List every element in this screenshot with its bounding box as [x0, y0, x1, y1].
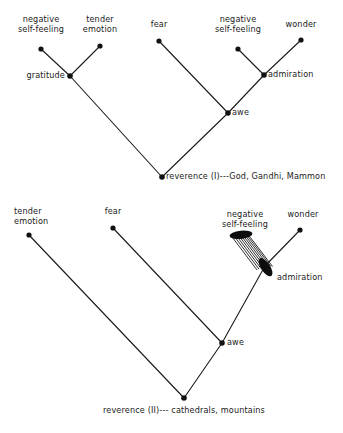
- edges-reverence-i: [41, 40, 301, 177]
- edge-tender-emotion-to-reverence-ii: [29, 235, 184, 398]
- edge-fear-to-awe: [159, 41, 228, 113]
- nodes-reverence-i: [38, 37, 303, 179]
- edge-awe-to-reverence: [162, 113, 228, 177]
- edge-gratitude-to-reverence: [70, 76, 162, 177]
- node-negative-self-feeling-right[interactable]: [235, 46, 240, 51]
- label-admiration: admiration: [268, 70, 314, 80]
- node-reverence-i-root[interactable]: [159, 174, 165, 180]
- node-gratitude[interactable]: [67, 73, 73, 79]
- label-awe: awe: [232, 108, 249, 118]
- label-tender-emotion-ii: tender emotion: [14, 207, 48, 226]
- diagram-reverence-ii: [26, 225, 302, 400]
- node-negative-self-feeling-left[interactable]: [38, 46, 43, 51]
- label-fear: fear: [151, 20, 168, 30]
- diagram-reverence-i: [38, 37, 303, 179]
- label-awe-ii: awe: [227, 338, 244, 348]
- edge-wonder-to-admiration-ii: [265, 230, 300, 266]
- label-gratitude: gratitude: [26, 71, 65, 81]
- node-tender-emotion[interactable]: [97, 43, 102, 48]
- edge-admiration-to-awe-ii: [222, 266, 265, 343]
- node-awe[interactable]: [225, 110, 231, 116]
- edge-negative-self-feeling-to-admiration: [238, 49, 264, 75]
- label-wonder-ii: wonder: [287, 210, 318, 220]
- label-fear-ii: fear: [105, 207, 122, 217]
- label-wonder: wonder: [285, 20, 316, 30]
- label-negative-self-feeling-left: negative self-feeling: [18, 15, 64, 34]
- node-fear-ii[interactable]: [110, 225, 115, 230]
- label-tender-emotion: tender emotion: [83, 15, 117, 34]
- label-reverence-i-root: reverence (I)---God, Gandhi, Mammon: [166, 172, 326, 182]
- label-negative-self-feeling-ii: negative self-feeling: [222, 210, 268, 229]
- label-reverence-ii-root: reverence (II)--- cathedrals, mountains: [103, 406, 265, 416]
- edges-reverence-ii: [29, 228, 300, 398]
- node-wonder[interactable]: [298, 37, 303, 42]
- node-awe-ii[interactable]: [219, 340, 225, 346]
- edge-fear-to-awe-ii: [113, 228, 222, 343]
- node-wonder-ii[interactable]: [297, 227, 302, 232]
- edge-tender-emotion-to-gratitude: [70, 46, 100, 76]
- node-tender-emotion-ii[interactable]: [26, 232, 31, 237]
- node-fear[interactable]: [156, 38, 161, 43]
- tree-diagram-figure: negative self-feeling tender emotion fea…: [0, 0, 343, 433]
- label-negative-self-feeling-right: negative self-feeling: [215, 15, 261, 34]
- edge-awe-to-reverence-ii: [184, 343, 222, 398]
- label-admiration-ii: admiration: [277, 273, 323, 283]
- node-reverence-ii-root[interactable]: [181, 395, 187, 401]
- node-admiration[interactable]: [261, 72, 267, 78]
